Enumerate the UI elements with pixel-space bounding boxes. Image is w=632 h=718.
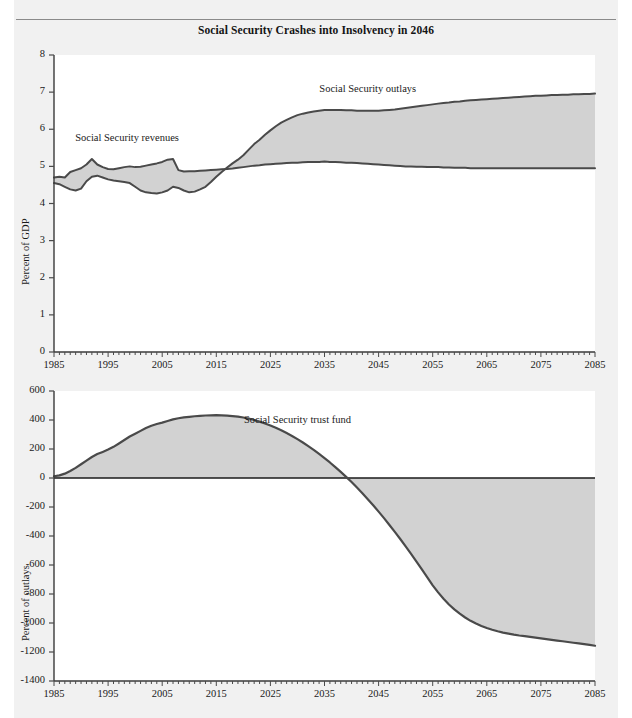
x-tick-label: 2055 [405,359,461,370]
y-tick-label: -400 [0,529,45,540]
y-tick-label: 6 [0,122,45,133]
y-tick-label: 4 [0,197,45,208]
y-tick-label: 0 [0,345,45,356]
series-annotation: Social Security revenues [75,132,179,143]
x-tick-label: 2025 [242,688,298,699]
y-tick-label: -1400 [0,674,45,685]
y-tick-label: -200 [0,500,45,511]
top-panel-svg [0,40,632,370]
x-tick-label: 1995 [80,359,136,370]
x-tick-label: 1985 [26,688,82,699]
bottom-chart-panel: 6004002000-200-400-600-800-1000-1200-140… [0,376,632,718]
title-divider-rule [16,19,616,20]
x-tick-label: 2075 [513,688,569,699]
trust-fund-fill [54,415,595,646]
series-annotation: Social Security outlays [319,83,416,94]
x-tick-label: 2045 [351,688,407,699]
y-tick-label: 1 [0,308,45,319]
y-tick-label: 200 [0,442,45,453]
y-tick-label: 8 [0,48,45,59]
x-tick-label: 2065 [459,359,515,370]
bottom-panel-svg [0,376,632,718]
x-tick-label: 2065 [459,688,515,699]
x-tick-label: 2025 [242,359,298,370]
x-tick-label: 2085 [567,688,623,699]
page-title: Social Security Crashes into Insolvency … [16,24,616,36]
top-chart-panel: 0123456781985199520052015202520352045205… [0,40,632,370]
y-tick-label: 400 [0,413,45,424]
x-tick-label: 2035 [297,688,353,699]
x-tick-label: 1995 [80,688,136,699]
x-tick-label: 2045 [351,359,407,370]
x-tick-label: 2015 [188,688,244,699]
y-axis-title: Percent of outlays [20,565,31,641]
y-tick-label: 7 [0,85,45,96]
y-tick-label: 600 [0,384,45,395]
y-tick-label: 5 [0,159,45,170]
between-series-fill [54,94,595,194]
y-axis-title: Percent of GDP [20,219,31,286]
x-tick-label: 2085 [567,359,623,370]
x-tick-label: 1985 [26,359,82,370]
x-tick-label: 2075 [513,359,569,370]
x-tick-label: 2015 [188,359,244,370]
x-tick-label: 2055 [405,688,461,699]
x-tick-label: 2005 [134,359,190,370]
y-tick-label: -1200 [0,645,45,656]
chart-page: Social Security Crashes into Insolvency … [0,0,632,718]
x-tick-label: 2035 [297,359,353,370]
series-annotation: Social Security trust fund [244,414,351,425]
x-tick-label: 2005 [134,688,190,699]
y-tick-label: 0 [0,471,45,482]
